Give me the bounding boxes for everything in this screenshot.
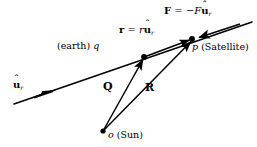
point-dot-earth xyxy=(141,54,147,60)
separation-unit-subscript: r xyxy=(151,29,154,36)
earth-point-symbol: q xyxy=(93,40,99,51)
force-unit-subscript: r xyxy=(209,10,212,17)
vector-diagram: F = −Fˆur r = rˆur (earth) q p (Satellit… xyxy=(0,0,257,147)
force-equals-sign: = xyxy=(174,5,182,16)
separation-vector-r xyxy=(146,40,190,57)
position-vector-Q xyxy=(103,60,143,132)
separation-hat-accent: ˆ xyxy=(145,19,150,28)
sun-point-label: o (Sun) xyxy=(108,130,143,140)
separation-equation-label: r = rˆur xyxy=(119,25,154,36)
axis-direction-arrowhead xyxy=(34,90,56,98)
point-dot-sun xyxy=(100,128,105,133)
force-magnitude-symbol: F xyxy=(194,5,201,16)
unit-vector-label: ˆur xyxy=(13,80,23,91)
force-minus-sign: − xyxy=(186,5,194,16)
sun-paren-text: (Sun) xyxy=(117,129,143,140)
force-equation-label: F = −Fˆur xyxy=(164,6,211,17)
diagram-canvas xyxy=(0,0,257,147)
force-hat-accent: ˆ xyxy=(203,0,208,9)
earth-paren-text: (earth) xyxy=(57,40,90,51)
unit-vector-subscript: r xyxy=(20,84,23,91)
satellite-point-label: p (Satellite) xyxy=(192,42,249,52)
separation-equals-sign: = xyxy=(127,24,135,35)
vector-R-label: R xyxy=(145,82,154,93)
unit-vector-hat-accent: ˆ xyxy=(14,74,19,83)
force-vector-F xyxy=(199,24,240,38)
earth-point-label: (earth) q xyxy=(57,41,99,51)
vector-Q-label: Q xyxy=(103,81,113,92)
satellite-paren-text: (Satellite) xyxy=(201,41,249,52)
